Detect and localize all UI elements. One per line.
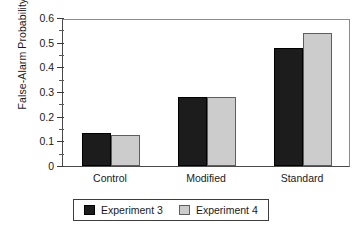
y-tick-label: 0.1 xyxy=(39,135,54,147)
legend-entry-1[interactable]: Experiment 3 xyxy=(84,204,163,216)
y-tick-mark xyxy=(59,80,64,81)
y-tick-mark xyxy=(57,92,64,93)
y-tick-mark xyxy=(57,67,64,68)
y-tick-mark xyxy=(59,55,64,56)
x-tick-label-control: Control xyxy=(93,172,127,184)
bar-modified-series-2 xyxy=(207,97,236,166)
bar-chart-figure: False-Alarm Probability 00.10.20.30.40.5… xyxy=(0,0,361,231)
y-tick-mark xyxy=(57,18,64,19)
y-tick-mark xyxy=(57,166,64,167)
x-tick-label-modified: Modified xyxy=(186,172,226,184)
y-tick-mark xyxy=(57,43,64,44)
x-tick-label-standard: Standard xyxy=(281,172,324,184)
bar-control-series-2 xyxy=(111,135,140,166)
legend-swatch-icon xyxy=(84,205,95,215)
y-tick-label: 0 xyxy=(48,160,54,172)
legend-label: Experiment 4 xyxy=(196,204,258,216)
bar-standard-series-2 xyxy=(303,33,332,166)
legend-label: Experiment 3 xyxy=(101,204,163,216)
chart-legend: Experiment 3Experiment 4 xyxy=(73,199,269,221)
y-tick-mark xyxy=(59,129,64,130)
legend-swatch-icon xyxy=(179,205,190,215)
y-tick-label: 0.5 xyxy=(39,37,54,49)
bar-modified-series-1 xyxy=(178,97,207,166)
y-tick-label: 0.6 xyxy=(39,12,54,24)
y-tick-label: 0.2 xyxy=(39,111,54,123)
y-tick-mark xyxy=(57,141,64,142)
y-tick-mark xyxy=(59,104,64,105)
y-tick-mark xyxy=(59,154,64,155)
y-tick-mark xyxy=(57,117,64,118)
plot-area: 00.10.20.30.40.50.6 xyxy=(62,19,350,167)
y-axis-title: False-Alarm Probability xyxy=(16,0,28,134)
y-tick-label: 0.3 xyxy=(39,86,54,98)
y-tick-mark xyxy=(59,30,64,31)
bar-control-series-1 xyxy=(82,133,111,166)
y-tick-label: 0.4 xyxy=(39,61,54,73)
legend-entry-2[interactable]: Experiment 4 xyxy=(179,204,258,216)
bar-standard-series-1 xyxy=(274,48,303,166)
